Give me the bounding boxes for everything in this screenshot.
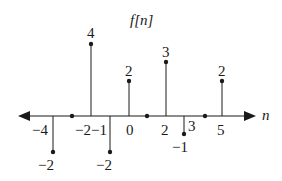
stem-n-1 — [145, 114, 149, 118]
right-arrow-icon — [244, 111, 256, 121]
stem-plot: n f[n] −4 −2−1 0 2 3 5 — [0, 0, 282, 181]
stem-n-5 — [220, 79, 224, 116]
tick-label-5: 5 — [217, 122, 225, 138]
stem-n-3 — [182, 116, 186, 136]
value-label-n-minus1: −2 — [96, 157, 112, 173]
stem-n-minus1 — [108, 116, 112, 154]
left-arrow-icon — [18, 111, 30, 121]
axis-label-n: n — [262, 107, 270, 123]
tick-label-0: 0 — [126, 122, 134, 138]
tick-label-minus2-minus1: −2−1 — [75, 122, 107, 138]
value-label-n-2: 3 — [162, 44, 170, 60]
stem-n-minus2 — [89, 42, 93, 116]
stem-n-0 — [127, 79, 131, 116]
stem-n-4 — [203, 114, 207, 118]
value-label-n-3: −1 — [172, 139, 188, 155]
value-label-n-minus2: 4 — [87, 25, 95, 41]
value-label-n-0: 2 — [125, 63, 133, 79]
value-label-n-minus4: −2 — [38, 157, 54, 173]
value-label-n-5: 2 — [218, 63, 226, 79]
stem-n-minus4 — [51, 116, 55, 154]
chart-title: f[n] — [130, 12, 154, 28]
tick-label-3: 3 — [188, 118, 196, 134]
stem-n-minus3 — [70, 114, 74, 118]
stem-n-2 — [164, 60, 168, 116]
n-axis — [18, 111, 256, 121]
tick-label-2: 2 — [161, 122, 169, 138]
tick-label-minus4: −4 — [32, 122, 48, 138]
